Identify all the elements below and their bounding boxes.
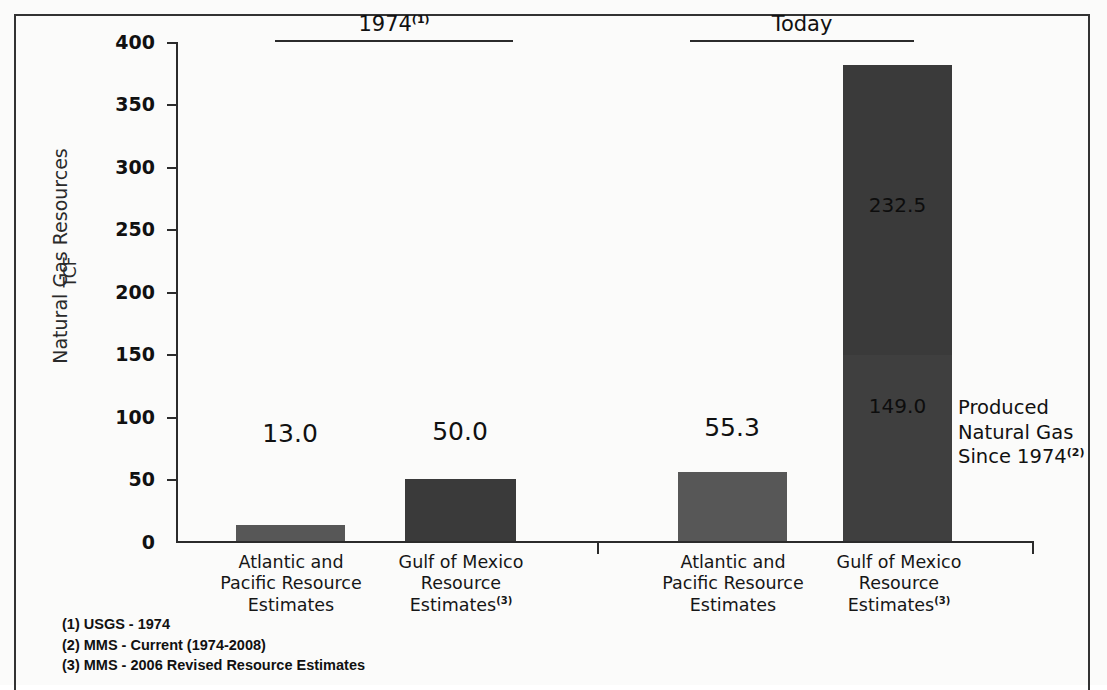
y-tick-mark — [167, 354, 176, 356]
footnotes-block: (1) USGS - 1974 (2) MMS - Current (1974-… — [62, 614, 365, 676]
annotation-produced-natural-gas: Produced Natural Gas Since 1974(2) — [958, 396, 1090, 470]
group-header-today-label: Today — [772, 12, 833, 36]
y-tick-label-200: 200 — [95, 283, 155, 302]
y-tick-mark — [167, 417, 176, 419]
y-axis-spine — [176, 42, 178, 543]
y-tick-label-300: 300 — [95, 158, 155, 177]
footnote-1: (1) USGS - 1974 — [62, 614, 365, 635]
category-4-footnote-marker: (3) — [934, 595, 950, 606]
x-axis-spine — [176, 541, 1034, 543]
y-tick-mark — [167, 479, 176, 481]
y-tick-label-100: 100 — [95, 408, 155, 427]
y-axis-unit-label: TCF — [60, 212, 80, 332]
bar-value-label-1: 13.0 — [231, 421, 349, 446]
annotation-footnote-marker: (2) — [1067, 446, 1085, 459]
bar-4-segment-produced-value-label: 149.0 — [843, 396, 952, 416]
y-tick-mark — [167, 167, 176, 169]
bar-4-gulf-of-mexico-today-stacked: 232.5 149.0 — [843, 65, 952, 541]
group-header-1974-rule — [275, 40, 513, 42]
y-tick-label-400: 400 — [95, 33, 155, 52]
bar-4-segment-produced-gas: 149.0 — [843, 355, 952, 541]
bar-4-segment-remaining-resource: 232.5 — [843, 65, 952, 355]
y-tick-label-250: 250 — [95, 220, 155, 239]
group-header-today-rule — [690, 40, 914, 42]
x-axis-group-separator-tick — [597, 543, 599, 554]
y-tick-mark — [167, 104, 176, 106]
x-axis-end-tick — [1032, 543, 1034, 554]
bar-value-label-2: 50.0 — [401, 419, 519, 444]
footnote-3: (3) MMS - 2006 Revised Resource Estimate… — [62, 655, 365, 676]
y-tick-label-50: 50 — [95, 470, 155, 489]
group-header-1974-label: 1974 — [358, 12, 411, 36]
footnote-2: (2) MMS - Current (1974-2008) — [62, 635, 365, 656]
bar-3-atlantic-pacific-today — [678, 472, 787, 541]
y-tick-mark — [167, 292, 176, 294]
bar-value-label-3: 55.3 — [673, 415, 791, 440]
y-tick-label-0: 0 — [95, 533, 155, 552]
category-label-1: Atlantic and Pacific Resource Estimates — [212, 552, 370, 616]
group-header-1974-footnote-marker: (1) — [412, 13, 430, 26]
category-label-3: Atlantic and Pacific Resource Estimates — [654, 552, 812, 616]
y-tick-mark — [167, 229, 176, 231]
group-header-1974: 1974(1) — [275, 14, 513, 35]
category-label-4: Gulf of Mexico Resource Estimates(3) — [820, 552, 978, 616]
bar-2-gulf-of-mexico-1974 — [405, 479, 516, 541]
y-tick-label-150: 150 — [95, 345, 155, 364]
category-label-2: Gulf of Mexico Resource Estimates(3) — [382, 552, 540, 616]
y-tick-label-350: 350 — [95, 95, 155, 114]
bar-1-atlantic-pacific-1974 — [236, 525, 345, 541]
bar-4-segment-remaining-value-label: 232.5 — [843, 195, 952, 215]
category-2-footnote-marker: (3) — [496, 595, 512, 606]
group-header-today: Today — [690, 14, 914, 35]
y-tick-mark — [167, 42, 176, 44]
